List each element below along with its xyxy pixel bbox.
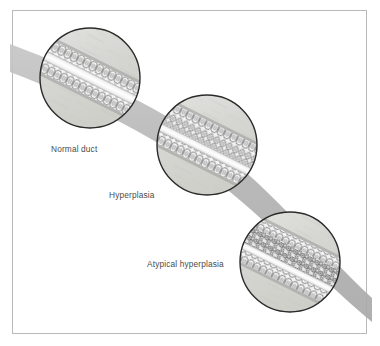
label-hyperplasia: Hyperplasia	[109, 190, 154, 200]
stage-atypical-hyperplasia	[216, 206, 365, 316]
duct-illustration	[0, 0, 380, 346]
label-normal-duct: Normal duct	[51, 144, 97, 154]
label-atypical-hyperplasia: Atypical hyperplasia	[147, 259, 224, 269]
stage-hyperplasia	[134, 91, 281, 197]
duct-progression-figure: Normal duct Hyperplasia Atypical hyperpl…	[0, 0, 380, 346]
